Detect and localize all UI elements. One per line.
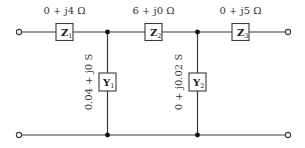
admittance-y1: Y1 0.04 + j0 S [83,54,116,111]
impedance-z3: Z3 0 + j5 Ω [219,5,261,41]
y1-value-label: 0.04 + j0 S [83,54,94,111]
junction-node-1-bottom [105,133,110,138]
admittance-y2: Y2 0 + j0.02 S [173,54,206,111]
y2-value-label: 0 + j0.02 S [173,54,184,111]
z2-value-label: 6 + j0 Ω [132,5,174,16]
junction-node-2-bottom [195,133,200,138]
terminal-bottom-left [16,132,21,137]
terminal-bottom-right [285,132,290,137]
z1-value-label: 0 + j4 Ω [43,5,85,16]
terminal-top-right [285,29,290,34]
terminal-top-left [16,29,21,34]
junction-node-2-top [195,30,200,35]
impedance-z1: Z1 0 + j4 Ω [43,5,85,41]
impedance-z2: Z2 6 + j0 Ω [132,5,174,41]
junction-node-1-top [105,30,110,35]
z3-value-label: 0 + j5 Ω [219,5,261,16]
circuit-diagram: Z1 0 + j4 Ω Z2 6 + j0 Ω Z3 0 + j5 Ω Y1 0… [0,0,305,148]
